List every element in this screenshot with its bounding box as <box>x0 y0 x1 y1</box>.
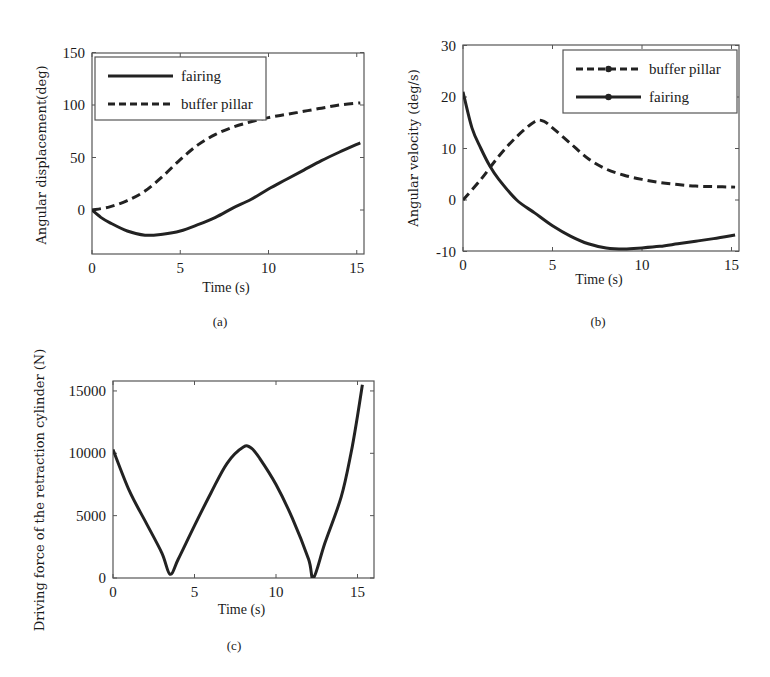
y-axis-label: Angular velocity (deg/s) <box>406 69 421 227</box>
x-tick-label: 15 <box>724 257 739 273</box>
chart-a: 051015050100150Time (s)Angular displacem… <box>34 45 364 330</box>
series-buffer-pillar <box>463 120 735 200</box>
panel-caption: (b) <box>590 314 605 329</box>
x-axis-label: Time (s) <box>218 602 266 618</box>
legend-label: buffer pillar <box>181 96 253 112</box>
x-tick-label: 0 <box>459 257 467 273</box>
x-tick-label: 5 <box>191 584 199 600</box>
x-tick-label: 5 <box>177 260 185 276</box>
legend: fairingbuffer pillar <box>95 57 266 120</box>
x-axis-label: Time (s) <box>575 272 623 288</box>
y-tick-label: 150 <box>63 45 86 61</box>
x-tick-label: 0 <box>109 584 117 600</box>
chart-b: 051015-100102030Time (s)Angular velocity… <box>406 38 739 330</box>
series-fairing <box>92 143 360 236</box>
series-driving-force <box>113 385 362 579</box>
y-tick-label: 30 <box>441 38 456 54</box>
x-tick-label: 5 <box>549 257 557 273</box>
y-tick-label: 50 <box>70 150 85 166</box>
y-axis-label: Angular displacement(deg) <box>34 65 49 245</box>
figure-canvas: 051015050100150Time (s)Angular displacem… <box>0 0 770 677</box>
y-tick-label: 15000 <box>69 383 107 399</box>
panel-caption: (c) <box>227 638 241 653</box>
legend: buffer pillarfairing <box>563 50 737 113</box>
y-tick-label: 0 <box>99 570 107 586</box>
y-tick-label: 100 <box>63 97 86 113</box>
legend-label: fairing <box>181 68 221 84</box>
x-tick-label: 0 <box>88 260 96 276</box>
legend-marker-icon <box>605 66 611 72</box>
x-tick-label: 15 <box>349 260 364 276</box>
legend-label: buffer pillar <box>649 61 721 77</box>
y-tick-label: 0 <box>449 192 457 208</box>
legend-marker-icon <box>605 94 611 100</box>
x-axis-label: Time (s) <box>202 280 250 296</box>
y-tick-label: 20 <box>441 89 456 105</box>
y-tick-label: -10 <box>436 244 456 260</box>
x-tick-label: 10 <box>269 584 284 600</box>
chart-c: 051015050001000015000Time (s)Driving for… <box>32 349 374 653</box>
y-tick-label: 10 <box>441 141 456 157</box>
y-tick-label: 5000 <box>76 508 106 524</box>
y-tick-label: 0 <box>78 202 86 218</box>
plot-frame <box>113 381 374 578</box>
y-axis-label: Driving force of the retraction cylinder… <box>32 349 47 632</box>
x-tick-label: 10 <box>635 257 650 273</box>
x-tick-label: 15 <box>350 584 365 600</box>
series-fairing <box>463 92 735 249</box>
panel-caption: (a) <box>213 314 227 329</box>
legend-label: fairing <box>649 89 689 105</box>
y-tick-label: 10000 <box>69 445 107 461</box>
x-tick-label: 10 <box>261 260 276 276</box>
